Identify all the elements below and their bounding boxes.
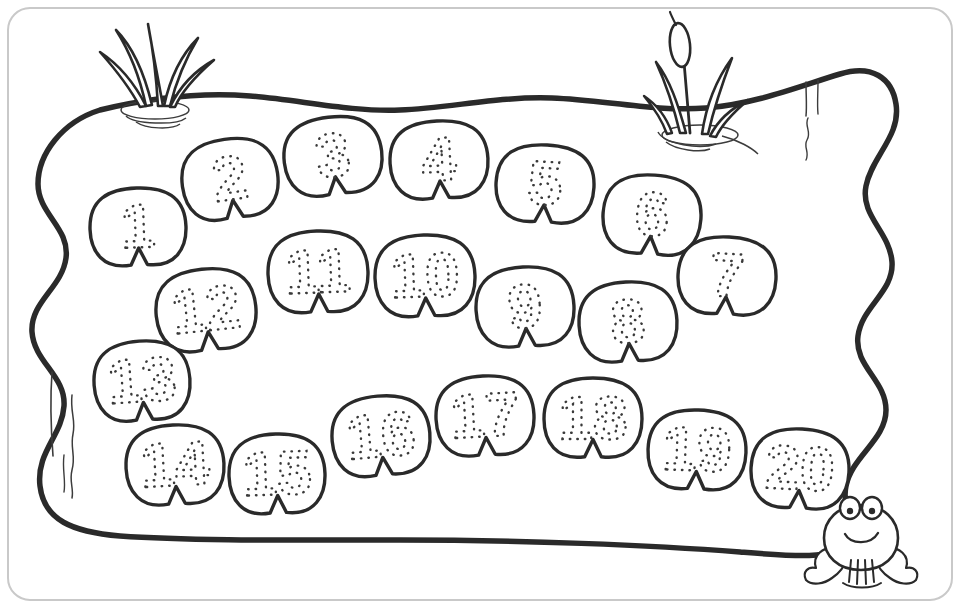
lilypad-number-16: 16 (343, 398, 418, 473)
lilypad-16[interactable]: 16 (329, 392, 434, 480)
lilypad-19[interactable]: 19 (647, 408, 748, 491)
lilypad-number-7: 7 (708, 240, 746, 311)
lilypad-number-15: 15 (241, 437, 312, 508)
lilypad-number-20: 20 (764, 432, 836, 505)
lilypad-number-6: 6 (633, 178, 672, 249)
lilypad-8[interactable]: 8 (577, 279, 679, 363)
lilypad-number-18: 18 (559, 383, 628, 452)
lilypad-number-12: 12 (168, 271, 244, 347)
lilypad-number-10: 10 (389, 239, 460, 310)
cattail-head (668, 22, 692, 68)
cattail-tip (670, 12, 676, 25)
lilypad-5[interactable]: 5 (494, 142, 596, 224)
worksheet-page: 1234567891011121314151617181920 (0, 0, 960, 608)
lilypad-number-4: 4 (420, 124, 459, 195)
lilypad-13[interactable]: 13 (91, 338, 192, 424)
lilypad-11[interactable]: 11 (267, 229, 370, 314)
lilypad-17[interactable]: 17 (434, 373, 536, 457)
lilypad-7[interactable]: 7 (676, 234, 778, 316)
lilypad-number-17: 17 (449, 379, 521, 452)
lilypad-10[interactable]: 10 (374, 233, 477, 318)
lilypad-number-9: 9 (506, 271, 544, 342)
frog-pupil-right (869, 508, 875, 514)
frog-foot-web (843, 583, 881, 588)
worksheet-canvas: 1234567891011121314151617181920 (0, 0, 960, 608)
lilypad-15[interactable]: 15 (228, 432, 327, 515)
lilypad-number-1: 1 (119, 191, 156, 261)
lilypad-6[interactable]: 6 (600, 172, 703, 258)
frog-pupil-left (847, 508, 853, 514)
lilypad-4[interactable]: 4 (388, 118, 490, 200)
lilypad-number-13: 13 (105, 343, 179, 417)
lilypad-number-8: 8 (609, 286, 647, 357)
lilypad-20[interactable]: 20 (749, 426, 851, 510)
lilypad-18[interactable]: 18 (544, 378, 642, 457)
lilypad-number-11: 11 (284, 235, 352, 306)
lilypad-12[interactable]: 12 (152, 264, 260, 355)
frog-body (824, 505, 898, 570)
lilypad-number-5: 5 (526, 148, 564, 219)
lilypad-number-19: 19 (661, 413, 732, 484)
lilypad-number-14: 14 (139, 428, 212, 501)
lilypad-1[interactable]: 1 (89, 186, 188, 267)
lilypad-9[interactable]: 9 (474, 264, 576, 348)
lilypad-14[interactable]: 14 (124, 422, 226, 506)
